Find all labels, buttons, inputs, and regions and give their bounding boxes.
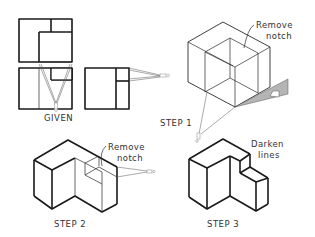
isometric-steps-diagram: GIVEN Remove notch STEP 1 — [0, 0, 315, 237]
step1-annotation-line2: notch — [266, 31, 292, 41]
front-view — [19, 68, 72, 109]
step1-label: STEP 1 — [160, 118, 192, 128]
step3-annotation-line2: lines — [258, 150, 280, 160]
step2-panel: Remove notch STEP 2 — [34, 140, 155, 229]
top-view — [19, 19, 72, 62]
divider-icon — [129, 68, 169, 81]
given-panel: GIVEN — [19, 19, 169, 123]
triangle-icon — [235, 79, 288, 107]
step1-panel: Remove notch STEP 1 — [160, 20, 293, 142]
step2-label: STEP 2 — [54, 219, 86, 229]
side-view — [85, 68, 129, 109]
step2-annotation-line2: notch — [117, 153, 143, 163]
divider-icon — [117, 167, 155, 177]
divider-icon — [196, 92, 235, 142]
step3-panel: Darken lines STEP 3 — [189, 139, 284, 229]
step2-annotation-line1: Remove — [108, 142, 145, 152]
step3-annotation-line1: Darken — [251, 139, 284, 149]
step1-annotation-line1: Remove — [256, 20, 293, 30]
given-label: GIVEN — [44, 113, 73, 123]
step3-label: STEP 3 — [207, 219, 239, 229]
